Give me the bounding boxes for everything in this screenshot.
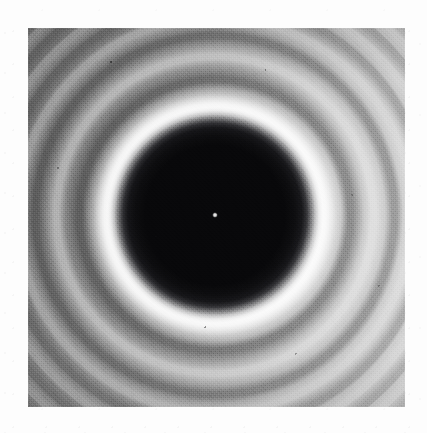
- emulsion-grain-coarse: [28, 28, 405, 407]
- arago-poisson-bright-spot: [212, 212, 217, 217]
- concentric-diffraction-fringes: [28, 28, 405, 407]
- illumination-field-gradient: [28, 28, 405, 407]
- dust-speck-overlay: [28, 28, 405, 407]
- figure-root: [0, 0, 427, 433]
- first-order-bright-ring: [28, 28, 405, 407]
- diffraction-photograph: [28, 28, 405, 407]
- halftone-screen-texture: [28, 28, 405, 407]
- plate-vignette: [28, 28, 405, 407]
- opaque-disc-shadow: [28, 28, 405, 407]
